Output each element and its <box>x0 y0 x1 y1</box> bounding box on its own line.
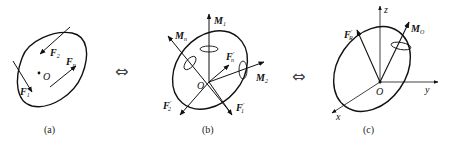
force-fn-arrow <box>50 66 76 87</box>
force-f2-label: F2 <box>49 47 60 59</box>
x-axis-label: x <box>335 111 341 122</box>
force-fn-prime-arrow <box>209 65 229 82</box>
statics-reduction-diagram: O F2 Fn F1 (a) ⇔ M1 Mn M2 F′n F′2 F′1 O … <box>0 0 450 151</box>
panel-a: O F2 Fn F1 (a) <box>13 27 87 136</box>
force-f1-prime-label: F′1 <box>235 102 245 114</box>
point-o-label: O <box>376 86 383 97</box>
equivalence-symbol-2: ⇔ <box>292 67 305 86</box>
caption-c: (c) <box>363 124 374 136</box>
moment-mn-label: Mn <box>174 30 187 42</box>
force-fn-prime-label: F′n <box>225 51 235 63</box>
panel-b: M1 Mn M2 F′n F′2 F′1 O (b) <box>157 14 268 136</box>
body-ellipse <box>318 12 426 126</box>
force-fn-label: Fn <box>65 56 76 68</box>
resultant-moment-label: MO <box>410 23 425 35</box>
x-axis <box>332 82 380 113</box>
resultant-force-label: F′R <box>343 29 353 41</box>
caption-a: (a) <box>44 124 55 136</box>
z-axis-label: z <box>383 4 388 15</box>
y-axis-label: y <box>424 84 430 95</box>
force-f2-prime-label: F′2 <box>162 100 172 112</box>
resultant-moment-arrow <box>380 22 409 82</box>
point-o-label: O <box>43 71 50 82</box>
moment-m1-label: M1 <box>213 15 226 27</box>
origin-dot <box>379 81 382 84</box>
moment-m2-label: M2 <box>255 72 268 84</box>
point-o-dot <box>38 72 41 75</box>
caption-b: (b) <box>202 124 214 136</box>
panel-c: z y x F′R MO O (c) <box>318 4 438 136</box>
force-f1-label: F1 <box>19 86 30 98</box>
resultant-force-arrow <box>357 30 380 82</box>
point-o-label: O <box>197 80 204 91</box>
force-f2-prime-arrow <box>180 82 209 115</box>
moment-mn-axis <box>168 36 230 112</box>
equivalence-symbol-1: ⇔ <box>115 62 128 81</box>
